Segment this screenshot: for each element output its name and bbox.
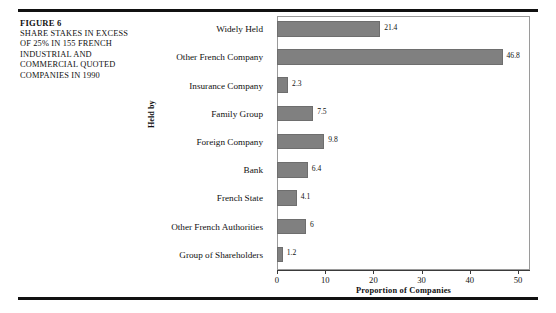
- x-axis-tick: [470, 270, 471, 274]
- bottom-rule: [18, 297, 538, 300]
- category-label: Other French Company: [176, 52, 263, 62]
- bar: [277, 219, 306, 235]
- x-axis-tick-label: 50: [514, 275, 523, 285]
- category-label-list: Widely HeldOther French CompanyInsurance…: [120, 16, 270, 270]
- x-axis-tick-label: 30: [417, 275, 426, 285]
- bar-value-label: 2.3: [292, 79, 302, 88]
- bar-value-label: 1.2: [287, 248, 297, 257]
- x-axis-line: [277, 270, 530, 271]
- bars-layer: 21.446.82.37.59.86.44.161.2: [277, 16, 530, 270]
- x-axis-tick: [518, 270, 519, 274]
- x-axis-title: Proportion of Companies: [277, 286, 530, 295]
- category-label: Bank: [244, 165, 263, 175]
- bar-row: 6.4: [277, 157, 530, 182]
- x-axis-tick: [373, 270, 374, 274]
- category-label: Insurance Company: [189, 81, 263, 91]
- bar-value-label: 4.1: [301, 192, 311, 201]
- figure-container: FIGURE 6 SHARE STAKES IN EXCESS OF 25% I…: [0, 0, 556, 313]
- bar: [277, 162, 308, 178]
- bar-row: 46.8: [277, 44, 530, 69]
- category-label: French State: [217, 193, 263, 203]
- category-label: Other French Authorities: [171, 222, 263, 232]
- bar: [277, 247, 283, 263]
- bar: [277, 49, 503, 65]
- bar: [277, 106, 313, 122]
- x-axis-tick-label: 0: [275, 275, 279, 285]
- bar: [277, 190, 297, 206]
- bar-value-label: 9.8: [328, 135, 338, 144]
- x-axis-tick: [422, 270, 423, 274]
- bar-value-label: 7.5: [317, 107, 327, 116]
- category-label: Foreign Company: [196, 137, 263, 147]
- bar-value-label: 21.4: [384, 23, 397, 32]
- top-rule: [18, 9, 538, 12]
- category-label: Family Group: [211, 109, 263, 119]
- bar: [277, 21, 380, 37]
- bar-row: 7.5: [277, 101, 530, 126]
- bar-row: 21.4: [277, 16, 530, 41]
- bar-row: 9.8: [277, 129, 530, 154]
- bar-value-label: 46.8: [507, 51, 520, 60]
- bar-value-label: 6.4: [312, 164, 322, 173]
- bar-value-label: 6: [310, 220, 314, 229]
- bar-row: 6: [277, 214, 530, 239]
- category-label: Widely Held: [216, 24, 263, 34]
- bar-row: 1.2: [277, 242, 530, 267]
- x-axis-tick: [277, 270, 278, 274]
- x-axis-tick-label: 40: [465, 275, 474, 285]
- category-label: Group of Shareholders: [179, 250, 263, 260]
- bar: [277, 134, 324, 150]
- bar: [277, 77, 288, 93]
- bar-row: 2.3: [277, 72, 530, 97]
- x-axis-tick-label: 20: [369, 275, 378, 285]
- x-axis-tick: [325, 270, 326, 274]
- x-axis-tick-label: 10: [321, 275, 330, 285]
- bar-row: 4.1: [277, 185, 530, 210]
